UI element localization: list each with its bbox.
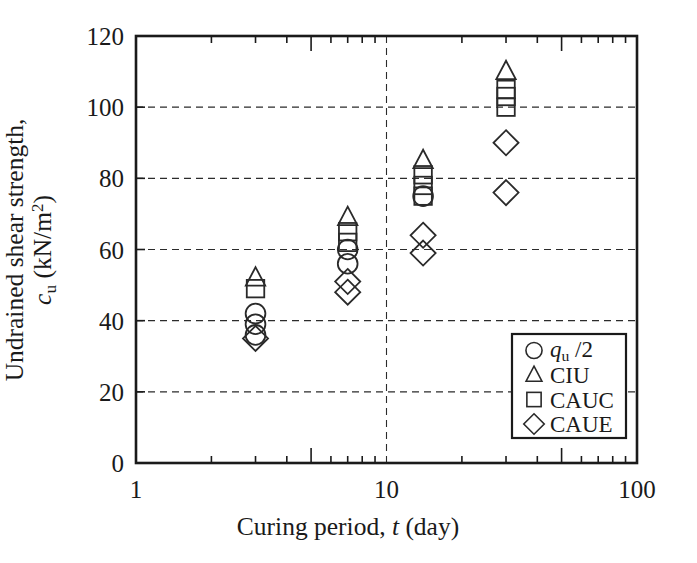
data-point-CAUE: [493, 130, 518, 155]
x-tick-label: 1: [130, 477, 143, 502]
y-axis-title-line2: cu (kN/m2): [28, 119, 61, 382]
data-point-CAUC: [247, 280, 264, 297]
x-axis-title-prefix: Curing period,: [237, 512, 392, 541]
marker-square: [497, 88, 514, 105]
data-point-qu2: [413, 186, 433, 206]
y-tick-label: 20: [40, 379, 124, 404]
x-axis-title: Curing period, t (day): [237, 512, 459, 542]
marker-diamond: [411, 241, 436, 266]
data-point-CAUC: [414, 187, 431, 204]
y-tick-label: 0: [40, 451, 124, 476]
marker-triangle: [496, 61, 515, 79]
legend-label-CAUC: CAUC: [550, 388, 614, 411]
legend-marker-circle: [526, 342, 542, 358]
data-point-CIU: [496, 61, 515, 79]
data-point-qu2: [338, 254, 358, 274]
data-point-CAUE: [493, 180, 518, 205]
marker-diamond: [411, 223, 436, 248]
y-tick-label: 120: [40, 24, 124, 49]
marker-circle: [338, 254, 358, 274]
legend-symbol-rest: /2: [569, 337, 593, 362]
marker-square: [414, 187, 431, 204]
y-axis-symbol-c: c: [28, 294, 57, 305]
data-point-CAUE: [411, 223, 436, 248]
legend-label-CIU: CIU: [550, 364, 590, 387]
legend-label-CAUE: CAUE: [550, 413, 613, 436]
data-point-CAUC: [497, 81, 514, 98]
y-axis-title-line1: Undrained shear strength,: [0, 119, 30, 382]
y-axis-units-open: (kN/m: [28, 212, 57, 285]
y-axis-units-exponent: 2: [28, 204, 47, 212]
marker-diamond: [335, 280, 360, 305]
y-tick-label: 100: [40, 95, 124, 120]
data-point-CAUE: [411, 241, 436, 266]
marker-square: [247, 280, 264, 297]
x-axis-title-suffix: (day): [399, 512, 459, 541]
marker-square: [497, 81, 514, 98]
legend-label-qu2: qu /2: [550, 338, 593, 363]
marker-circle: [413, 186, 433, 206]
x-tick-label: 10: [374, 477, 399, 502]
data-point-CIU: [246, 267, 265, 285]
y-axis-title: Undrained shear strength, cu (kN/m2): [0, 119, 61, 382]
data-markers-group: [243, 61, 519, 351]
data-point-CAUC: [497, 88, 514, 105]
legend-symbol-q: q: [550, 337, 562, 362]
marker-diamond: [493, 180, 518, 205]
marker-triangle: [246, 267, 265, 285]
scatter-plot-canvas: [0, 0, 697, 563]
data-point-CAUE: [335, 280, 360, 305]
marker-diamond: [493, 130, 518, 155]
x-tick-label: 100: [618, 477, 656, 502]
legend-marker-square: [527, 392, 541, 406]
y-axis-units-close: ): [28, 195, 57, 204]
figure-container: 020406080100120 110100 Curing period, t …: [0, 0, 697, 563]
y-axis-symbol-c-subscript: u: [41, 285, 60, 294]
